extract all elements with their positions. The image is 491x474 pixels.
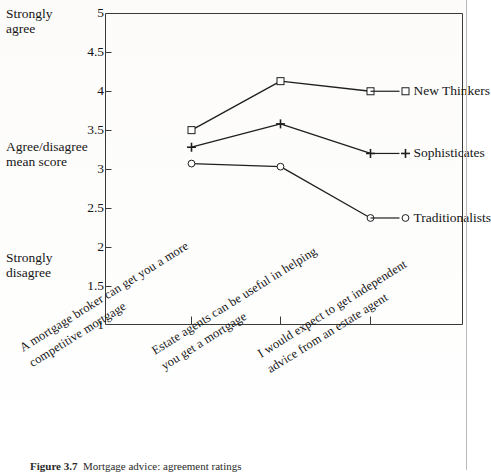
legend-leader-lines — [371, 88, 411, 222]
legend-marker-2 — [402, 215, 409, 222]
y-tick-2.5: 2.5 — [87, 201, 104, 215]
y-axis-anchor-strongly-disagree: Strongly disagree — [6, 250, 53, 280]
data-point-1-1 — [276, 119, 285, 128]
data-point-0-0 — [188, 127, 195, 134]
legend-marker-0 — [402, 88, 409, 95]
series-line-2 — [192, 164, 371, 218]
figure-caption-number: Figure 3.7 — [30, 460, 77, 472]
data-point-2-1 — [277, 163, 284, 170]
y-tick-5: 5 — [97, 6, 104, 20]
scan-edge-artifact — [466, 0, 467, 470]
series-label-new-thinkers: New Thinkers — [414, 84, 491, 98]
figure-caption: Figure 3.7 Mortgage advice: agreement ra… — [30, 460, 242, 474]
x-axis-category-labels: A mortgage broker can get you a more com… — [0, 325, 468, 455]
y-tick-3: 3 — [97, 162, 104, 176]
series-label-sophisticates: Sophisticates — [414, 146, 485, 160]
y-tick-4: 4 — [97, 84, 104, 98]
series-layer — [187, 78, 375, 222]
data-point-0-1 — [277, 78, 284, 85]
legend-marker-1 — [401, 149, 410, 158]
y-tick-2: 2 — [97, 240, 104, 254]
figure-caption-body: Mortgage advice: agreement ratings — [83, 460, 242, 472]
y-tick-3.5: 3.5 — [87, 123, 104, 137]
data-point-1-0 — [187, 143, 196, 152]
y-tick-4.5: 4.5 — [87, 45, 104, 59]
y-tick-marks — [106, 53, 112, 287]
y-axis-anchor-strongly-agree: Strongly agree — [6, 6, 53, 36]
data-point-2-0 — [188, 160, 195, 167]
series-label-traditionalists: Traditionalists — [414, 211, 491, 225]
